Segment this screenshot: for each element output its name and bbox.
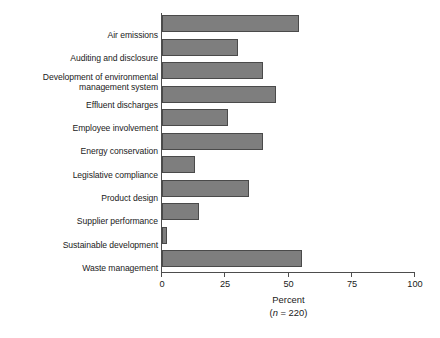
bar	[162, 250, 302, 267]
x-axis-sample-size: (n = 220)	[162, 307, 415, 318]
bar	[162, 180, 249, 197]
category-label: Energy conservation	[0, 147, 158, 157]
x-axis-tick-label: 100	[407, 279, 422, 289]
x-axis-tick	[224, 272, 225, 277]
bar-chart: Air emissions Auditing and disclosure De…	[0, 0, 440, 338]
category-label: Sustainable development	[0, 241, 158, 251]
category-label: Supplier performance	[0, 217, 158, 227]
x-axis-tick	[414, 272, 415, 277]
category-label: Employee involvement	[0, 124, 158, 134]
bar	[162, 39, 238, 56]
x-axis-tick-label: 75	[347, 279, 357, 289]
bar	[162, 109, 228, 126]
bar	[162, 15, 299, 32]
bar	[162, 203, 199, 220]
x-axis-tick-label: 0	[159, 279, 164, 289]
category-label: Development of environmental management …	[0, 73, 158, 92]
x-axis-tick	[351, 272, 352, 277]
x-axis-tick	[288, 272, 289, 277]
category-label: Effluent discharges	[0, 101, 158, 111]
category-label: Legislative compliance	[0, 171, 158, 181]
bar	[162, 62, 263, 79]
category-label: Product design	[0, 194, 158, 204]
category-label: Auditing and disclosure	[0, 54, 158, 64]
bar	[162, 227, 167, 244]
x-axis-tick-label: 50	[283, 279, 293, 289]
bar	[162, 133, 263, 150]
x-axis-tick	[161, 272, 162, 277]
category-label: Waste management	[0, 264, 158, 274]
x-axis-title: Percent	[162, 294, 415, 305]
bar	[162, 86, 276, 103]
bar	[162, 156, 195, 173]
plot-area: 0 25 50 75 100	[162, 13, 415, 272]
x-axis-tick-label: 25	[220, 279, 230, 289]
category-label: Air emissions	[0, 31, 158, 41]
category-axis-labels: Air emissions Auditing and disclosure De…	[0, 13, 158, 272]
